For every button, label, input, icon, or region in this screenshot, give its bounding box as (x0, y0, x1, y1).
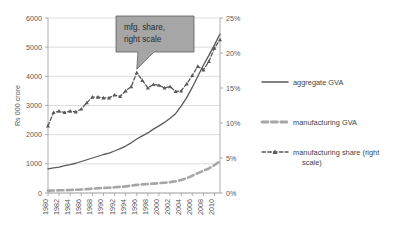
y-tick-label-left: 0 (38, 189, 42, 198)
x-tick-label: 1986 (74, 199, 83, 215)
x-tick-label: 2002 (163, 199, 172, 215)
y-tick-label-left: 4000 (26, 72, 42, 81)
chart-container: 0100020003000400050006000 0%5%10%15%20%2… (0, 0, 394, 235)
x-tick-label: 2010 (207, 199, 216, 215)
dual-axis-line-chart: 0100020003000400050006000 0%5%10%15%20%2… (0, 0, 394, 235)
y-tick-label-right: 20% (226, 49, 241, 58)
y-tick-label-left: 1000 (26, 159, 42, 168)
y-tick-label-right: 10% (226, 119, 241, 128)
y-tick-label-left: 5000 (26, 43, 42, 52)
y-axis-title: Rs 000 crore (13, 85, 22, 126)
x-tick-label: 2000 (152, 199, 161, 215)
y-tick-label-right: 25% (226, 14, 241, 23)
legend-label: aggregate GVA (293, 78, 343, 87)
y-tick-label-left: 2000 (26, 130, 42, 139)
x-tick-label: 1998 (141, 199, 150, 215)
legend-label-cont: scale) (302, 158, 322, 167)
y-axis-title-label: Rs 000 crore (13, 85, 22, 126)
x-tick-label: 2006 (185, 199, 194, 215)
x-tick-label: 2008 (196, 199, 205, 215)
x-tick-label: 1980 (41, 199, 50, 215)
y-tick-label-left: 3000 (26, 101, 42, 110)
y-tick-label-right: 5% (226, 154, 237, 163)
y-tick-label-right: 0% (226, 189, 237, 198)
y-tick-label-left: 6000 (26, 14, 42, 23)
x-tick-label: 1996 (130, 199, 139, 215)
x-tick-label: 1982 (52, 199, 61, 215)
legend-label: manufacturing GVA (293, 118, 357, 127)
x-tick-label: 1984 (63, 199, 72, 215)
callout-text-line2: right scale (124, 35, 162, 44)
x-tick-label: 1994 (119, 199, 128, 215)
x-tick-label: 1990 (96, 199, 105, 215)
legend-label: manufacturing share (right (293, 148, 379, 157)
x-tick-label: 1992 (108, 199, 117, 215)
x-tick-label: 1988 (85, 199, 94, 215)
y-tick-label-right: 15% (226, 84, 241, 93)
x-tick-label: 2004 (174, 199, 183, 215)
callout-text-line1: mfg. share, (124, 23, 165, 32)
